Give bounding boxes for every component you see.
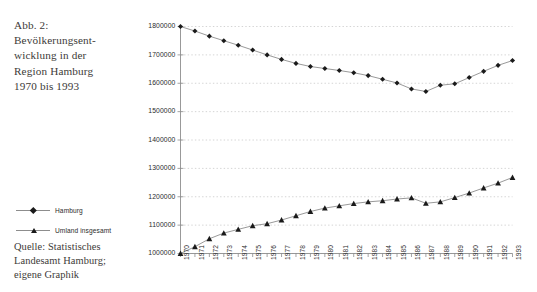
y-tick-label-1100000: 1100000 bbox=[124, 221, 176, 228]
data-point-hamburg-1978 bbox=[293, 61, 298, 66]
x-tick-label-1987: 1987 bbox=[428, 244, 435, 259]
data-point-hamburg-1971 bbox=[192, 28, 197, 33]
data-point-hamburg-1970 bbox=[178, 24, 183, 29]
x-tick-label-1988: 1988 bbox=[443, 244, 450, 259]
x-tick-label-1991: 1991 bbox=[486, 244, 493, 259]
x-tick-label-1990: 1990 bbox=[472, 244, 479, 259]
x-tick-label-1993: 1993 bbox=[515, 244, 522, 259]
x-tick-label-1978: 1978 bbox=[299, 244, 306, 259]
data-point-hamburg-1972 bbox=[207, 34, 212, 39]
data-point-umland-insgesamt-1971 bbox=[192, 244, 198, 249]
data-point-hamburg-1985 bbox=[394, 80, 399, 85]
data-point-hamburg-1992 bbox=[496, 63, 501, 68]
data-point-hamburg-1983 bbox=[366, 73, 371, 78]
x-tick-label-1974: 1974 bbox=[241, 244, 248, 259]
figure-root: Abb. 2: Bevölkerungsent- wicklung in der… bbox=[0, 0, 537, 292]
data-point-hamburg-1986 bbox=[409, 86, 414, 91]
data-point-hamburg-1984 bbox=[380, 77, 385, 82]
y-tick-label-1000000: 1000000 bbox=[124, 249, 176, 256]
data-point-hamburg-1976 bbox=[265, 52, 270, 57]
data-point-hamburg-1973 bbox=[221, 38, 226, 43]
data-point-hamburg-1989 bbox=[452, 81, 457, 86]
x-tick-label-1989: 1989 bbox=[457, 244, 464, 259]
data-point-hamburg-1981 bbox=[337, 68, 342, 73]
x-tick-label-1970: 1970 bbox=[183, 244, 190, 259]
data-point-umland-insgesamt-1990 bbox=[466, 190, 472, 195]
y-tick-label-1400000: 1400000 bbox=[124, 136, 176, 143]
data-point-hamburg-1979 bbox=[308, 64, 313, 69]
series-line-hamburg bbox=[181, 27, 513, 92]
x-tick-label-1975: 1975 bbox=[255, 244, 262, 259]
x-tick-label-1992: 1992 bbox=[501, 244, 508, 259]
y-tick-label-1800000: 1800000 bbox=[124, 22, 176, 29]
y-tick-label-1300000: 1300000 bbox=[124, 164, 176, 171]
data-point-hamburg-1982 bbox=[351, 70, 356, 75]
y-tick-label-1600000: 1600000 bbox=[124, 79, 176, 86]
series-line-umland-insgesamt bbox=[181, 177, 513, 253]
data-point-hamburg-1974 bbox=[236, 43, 241, 48]
data-point-hamburg-1990 bbox=[467, 75, 472, 80]
x-tick-label-1981: 1981 bbox=[342, 244, 349, 259]
data-point-umland-insgesamt-1972 bbox=[206, 236, 212, 241]
data-point-hamburg-1993 bbox=[510, 58, 515, 63]
data-point-hamburg-1980 bbox=[322, 66, 327, 71]
x-tick-label-1983: 1983 bbox=[371, 244, 378, 259]
x-tick-label-1979: 1979 bbox=[313, 244, 320, 259]
x-tick-label-1976: 1976 bbox=[270, 244, 277, 259]
data-point-hamburg-1987 bbox=[423, 89, 428, 94]
y-tick-label-1700000: 1700000 bbox=[124, 51, 176, 58]
x-tick-label-1985: 1985 bbox=[400, 244, 407, 259]
x-tick-label-1986: 1986 bbox=[414, 244, 421, 259]
data-point-hamburg-1975 bbox=[250, 48, 255, 53]
data-point-umland-insgesamt-1993 bbox=[510, 175, 516, 180]
y-tick-label-1200000: 1200000 bbox=[124, 193, 176, 200]
data-point-hamburg-1977 bbox=[279, 57, 284, 62]
data-point-hamburg-1991 bbox=[481, 69, 486, 74]
x-tick-label-1984: 1984 bbox=[385, 244, 392, 259]
x-tick-label-1972: 1972 bbox=[212, 244, 219, 259]
x-tick-label-1980: 1980 bbox=[327, 244, 334, 259]
data-point-hamburg-1988 bbox=[438, 83, 443, 88]
x-tick-label-1982: 1982 bbox=[356, 244, 363, 259]
x-tick-label-1973: 1973 bbox=[226, 244, 233, 259]
line-chart: 1000000110000012000001300000140000015000… bbox=[0, 0, 537, 292]
x-tick-label-1971: 1971 bbox=[198, 244, 205, 259]
data-point-umland-insgesamt-1992 bbox=[495, 180, 501, 185]
y-tick-label-1500000: 1500000 bbox=[124, 107, 176, 114]
x-tick-label-1977: 1977 bbox=[284, 244, 291, 259]
